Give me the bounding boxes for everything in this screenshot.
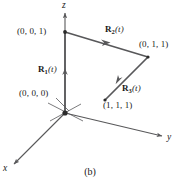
point-origin-dot xyxy=(62,110,67,115)
figure-caption: (b) xyxy=(0,166,180,177)
vector-label-R1-symbol: R xyxy=(38,64,45,74)
vector-label-R3-param: (t) xyxy=(132,83,141,93)
point-001-dot xyxy=(63,30,67,34)
vector-diagram-figure: z y x (0, 0, 0) (0, 0, 1) (0, 1, 1) (1, … xyxy=(0,0,180,183)
point-label-origin: (0, 0, 0) xyxy=(19,88,48,98)
vector-label-R3: R3(t) xyxy=(122,83,141,96)
origin-leader-line xyxy=(56,98,69,111)
axis-label-y: y xyxy=(167,132,171,142)
vector-label-R2-symbol: R xyxy=(105,24,112,34)
axis-label-z: z xyxy=(62,0,66,10)
point-label-011: (0, 1, 1) xyxy=(139,39,168,49)
vector-label-R2-param: (t) xyxy=(115,24,124,34)
vector-label-R1-param: (t) xyxy=(48,64,57,74)
point-011-dot xyxy=(146,55,149,58)
vector-label-R2: R2(t) xyxy=(105,24,124,37)
point-label-111: (1, 1, 1) xyxy=(103,100,132,110)
vector-label-R1: R1(t) xyxy=(38,64,57,77)
vector-label-R3-symbol: R xyxy=(122,83,129,93)
axis-y-line xyxy=(65,113,162,136)
point-label-001: (0, 0, 1) xyxy=(17,26,46,36)
axis-x-line xyxy=(14,113,65,164)
